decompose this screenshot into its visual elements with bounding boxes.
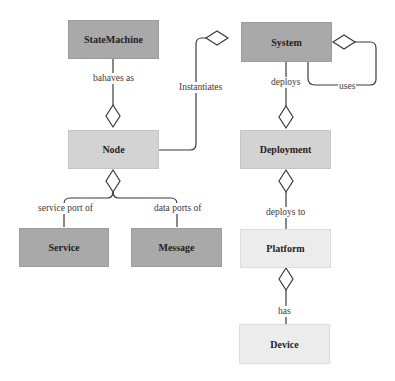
class-service[interactable]: Service (19, 228, 109, 267)
class-label: Deployment (260, 144, 312, 155)
class-label: Node (102, 144, 124, 155)
class-label: Platform (266, 243, 304, 254)
edge-label-behaves-as: bahaves as (92, 73, 135, 84)
class-label: StateMachine (84, 34, 143, 45)
class-node[interactable]: Node (68, 130, 159, 169)
edge-label-deploys-to: deploys to (265, 207, 306, 218)
connector-layer (0, 0, 395, 381)
class-label: Message (158, 242, 194, 253)
diamond-icon (206, 31, 228, 45)
class-message[interactable]: Message (131, 228, 222, 267)
diamond-icon (333, 35, 355, 49)
diamond-icon (279, 268, 293, 290)
diamond-icon (279, 170, 293, 192)
diamond-icon (106, 105, 120, 127)
edge-label-instantiates: Instantiates (178, 82, 223, 93)
diamond-icon (106, 170, 120, 192)
diamond-icon (279, 106, 293, 128)
edge-label-service-port-of: service port of (37, 203, 94, 214)
class-statemachine[interactable]: StateMachine (68, 20, 159, 59)
class-label: System (271, 37, 302, 48)
edge-label-uses: uses (338, 81, 356, 92)
edge-label-deploys: deploys (270, 77, 302, 88)
class-device[interactable]: Device (239, 324, 330, 364)
class-system[interactable]: System (241, 22, 332, 62)
class-platform[interactable]: Platform (240, 229, 331, 268)
class-deployment[interactable]: Deployment (240, 130, 331, 169)
class-label: Service (48, 242, 79, 253)
class-label: Device (270, 339, 298, 350)
edge-instantiates (158, 38, 208, 150)
edge-label-has: has (277, 306, 292, 317)
edge-label-data-ports-of: data ports of (153, 203, 203, 214)
